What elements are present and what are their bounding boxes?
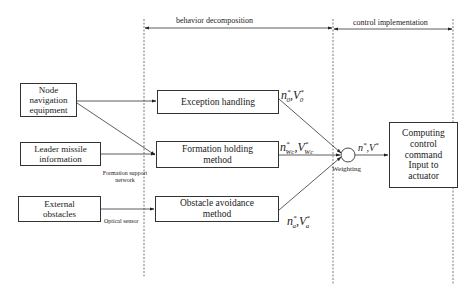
optical-sensor-label: Optical sensor bbox=[104, 218, 139, 225]
leader-missile-information-text: Leader missile information bbox=[21, 144, 100, 164]
computing-control-command-text: Computing control command Input to actua… bbox=[395, 128, 453, 181]
combined-output-symbol: n*,V* bbox=[358, 141, 379, 153]
external-obstacles-box: External obstacles bbox=[18, 196, 101, 222]
weighting-node-circle bbox=[341, 148, 355, 162]
behavior-decomposition-label: behavior decomposition bbox=[176, 16, 253, 25]
control-implementation-label: control implementation bbox=[353, 18, 428, 27]
node-navigation-equipment-box: Node navigation equipment bbox=[20, 83, 77, 117]
obstacle-output-symbol: n*a,V*a bbox=[287, 214, 309, 230]
external-obstacles-text: External obstacles bbox=[35, 199, 85, 219]
formation-holding-method-text: Formation holding method bbox=[173, 144, 263, 165]
obstacle-avoidance-method-box: Obstacle avoidance method bbox=[155, 196, 279, 222]
exception-handling-box: Exception handling bbox=[157, 90, 279, 114]
formation-holding-method-box: Formation holding method bbox=[156, 141, 279, 168]
exception-handling-text: Exception handling bbox=[181, 97, 255, 108]
behavior-decomposition-diagram: behavior decomposition control implement… bbox=[0, 0, 471, 297]
formation-support-network-label: Formation support network bbox=[99, 170, 151, 184]
formation-output-symbol: n*Wc,V*Wc bbox=[280, 140, 313, 156]
node-navigation-equipment-text: Node navigation equipment bbox=[21, 85, 76, 115]
obstacle-avoidance-method-text: Obstacle avoidance method bbox=[167, 198, 267, 219]
weighting-label: Weighting bbox=[332, 165, 361, 173]
leader-missile-information-box: Leader missile information bbox=[20, 142, 101, 166]
computing-control-command-box: Computing control command Input to actua… bbox=[389, 122, 458, 188]
exception-output-symbol: n*0,V*0 bbox=[281, 88, 303, 104]
